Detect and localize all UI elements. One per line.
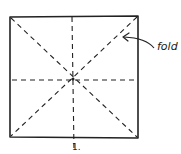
fold-line-vertical (72, 17, 74, 150)
center-point (72, 78, 75, 81)
step-number-label: 1. (72, 142, 81, 152)
fold-label: fold (157, 40, 178, 53)
fold-diagram-svg (0, 0, 181, 154)
annotation-arrow (124, 37, 154, 48)
fold-diagram: fold 1. (0, 0, 181, 154)
